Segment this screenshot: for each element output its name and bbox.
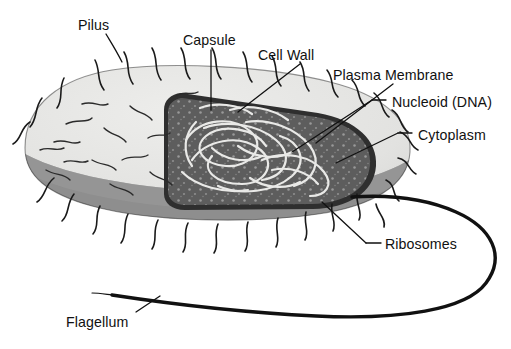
- label-flagellum: Flagellum: [66, 315, 128, 329]
- label-nucleoid-dna: Nucleoid (DNA): [392, 95, 492, 109]
- label-pilus: Pilus: [78, 18, 109, 32]
- label-plasma-membrane: Plasma Membrane: [333, 68, 454, 82]
- bacterial-cell-diagram: Pilus Capsule Cell Wall Plasma Membrane …: [0, 0, 511, 349]
- cell-illustration: [0, 0, 511, 349]
- label-ribosomes: Ribosomes: [385, 237, 457, 251]
- label-cytoplasm: Cytoplasm: [418, 128, 486, 142]
- label-capsule: Capsule: [183, 33, 236, 47]
- label-cell-wall: Cell Wall: [258, 48, 314, 62]
